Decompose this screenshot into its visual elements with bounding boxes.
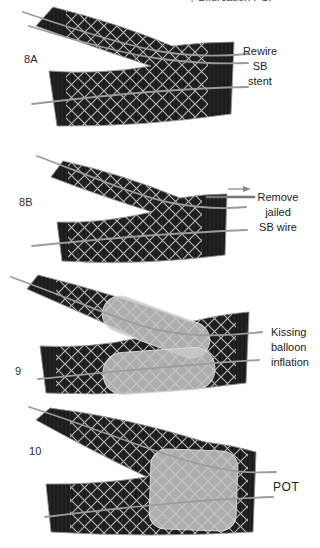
annotation-rewire-sb-stent: Rewire SB stent — [235, 44, 285, 89]
annotation-line: Rewire — [235, 44, 285, 59]
annotation-pot: POT — [273, 480, 299, 494]
panel-9-artwork — [11, 270, 262, 406]
bifurcation-figure: † Bifurcation PCI — [0, 0, 320, 548]
annotation-line: stent — [235, 74, 285, 89]
annotation-remove-jailed-sb-wire: Remove jailed SB wire — [249, 190, 307, 235]
pot-balloon — [149, 449, 239, 532]
panel-label-8b: 8B — [19, 196, 33, 208]
panel-label-8a: 8A — [24, 53, 38, 65]
panel-label-9: 9 — [15, 365, 21, 377]
annotation-line: balloon — [271, 340, 309, 355]
annotation-line: inflation — [271, 355, 309, 370]
panel-8a-artwork — [23, 0, 248, 140]
panel-label-10: 10 — [29, 445, 42, 457]
stent-mesh-8b — [68, 150, 202, 276]
annotation-line: Remove — [249, 190, 307, 205]
right-arrow-icon — [228, 186, 251, 192]
stent-mesh-8a — [66, 0, 208, 140]
annotation-line: SB — [235, 59, 285, 74]
annotation-kissing-balloon-inflation: Kissing balloon inflation — [271, 325, 309, 370]
annotation-line: Kissing — [271, 325, 309, 340]
panel-10-artwork — [29, 400, 276, 548]
annotation-line: SB wire — [249, 220, 307, 235]
annotation-line: jailed — [249, 205, 307, 220]
panel-8b-artwork — [32, 150, 254, 276]
